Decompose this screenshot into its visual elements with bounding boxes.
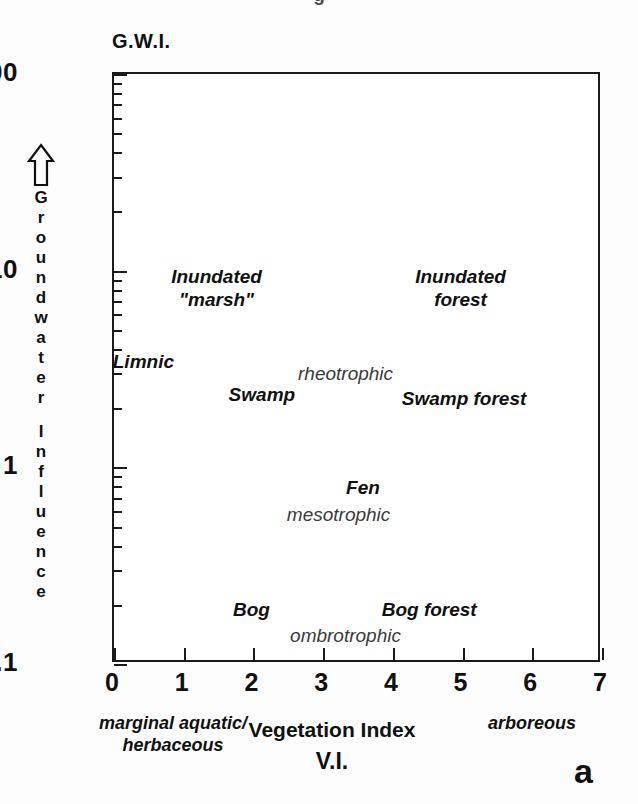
y-axis-title-char: n bbox=[24, 542, 58, 562]
wetland-type-label: Bog forest bbox=[382, 598, 477, 621]
y-axis-title-char: c bbox=[24, 562, 58, 582]
y-axis-minor-tick bbox=[114, 330, 122, 332]
x-axis-tick-label: 7 bbox=[580, 668, 620, 697]
trophic-status-label: rheotrophic bbox=[298, 363, 393, 385]
y-axis-title-char: w bbox=[24, 308, 58, 328]
up-arrow-outline-icon bbox=[27, 143, 55, 187]
y-axis-tick-label: 10 bbox=[0, 253, 18, 284]
x-axis-tick-label: 0 bbox=[92, 668, 132, 697]
y-axis-minor-tick bbox=[114, 605, 122, 607]
y-axis-title: GroundwaterInfluence bbox=[24, 188, 58, 602]
y-axis-title-char: o bbox=[24, 228, 58, 248]
y-axis-minor-tick bbox=[114, 314, 122, 316]
y-axis-minor-tick bbox=[114, 280, 122, 282]
x-axis-tick-label: 2 bbox=[231, 668, 271, 697]
y-axis-title-char: t bbox=[24, 348, 58, 368]
y-axis-title-word-gap bbox=[24, 408, 58, 422]
y-axis-title-char: I bbox=[24, 422, 58, 442]
x-axis-tick-label: 4 bbox=[371, 668, 411, 697]
x-axis-tick bbox=[532, 648, 534, 660]
figure-panel: g G.W.I. GroundwaterInfluence a Vegetati… bbox=[0, 0, 638, 804]
y-axis-minor-tick bbox=[114, 373, 122, 375]
y-axis-major-tick bbox=[114, 664, 127, 666]
wetland-type-label: Swamp forest bbox=[402, 386, 527, 409]
x-axis-tick bbox=[114, 648, 116, 660]
y-axis-title-char: d bbox=[24, 288, 58, 308]
y-axis-title-char: l bbox=[24, 482, 58, 502]
wetland-type-label: Limnic bbox=[113, 349, 174, 372]
wetland-type-label: Inundated "marsh" bbox=[171, 265, 262, 311]
y-axis-minor-tick bbox=[114, 83, 122, 85]
x-axis-tick-label: 5 bbox=[441, 668, 481, 697]
x-axis-tick-label: 6 bbox=[510, 668, 550, 697]
y-axis-title-char: e bbox=[24, 368, 58, 388]
wetland-type-label: Fen bbox=[346, 475, 380, 498]
y-axis-minor-tick bbox=[114, 408, 122, 410]
x-axis-tick bbox=[393, 648, 395, 660]
y-axis-minor-tick bbox=[114, 118, 122, 120]
y-axis-major-tick bbox=[114, 271, 127, 273]
y-axis-title-char: n bbox=[24, 442, 58, 462]
y-axis-minor-tick bbox=[114, 290, 122, 292]
y-axis-minor-tick bbox=[114, 511, 122, 513]
y-axis-major-tick bbox=[114, 74, 127, 76]
wetland-type-label: Inundated forest bbox=[415, 265, 506, 311]
x-axis-tick bbox=[463, 648, 465, 660]
wetland-type-label: Bog bbox=[233, 598, 270, 621]
y-axis-tick-label: 1 bbox=[0, 450, 18, 481]
y-axis-title-char: a bbox=[24, 328, 58, 348]
x-axis-note-left: marginal aquatic/ herbaceous bbox=[78, 712, 268, 756]
y-axis-minor-tick bbox=[114, 211, 122, 213]
y-axis-title-char: r bbox=[24, 388, 58, 408]
y-axis-minor-tick bbox=[114, 104, 122, 106]
y-axis-minor-tick bbox=[114, 476, 122, 478]
gwi-axis-heading: G.W.I. bbox=[112, 30, 171, 53]
trophic-status-label: mesotrophic bbox=[287, 504, 391, 526]
y-axis-title-char: e bbox=[24, 582, 58, 602]
trophic-status-label: ombrotrophic bbox=[290, 625, 401, 647]
x-axis-tick bbox=[602, 648, 604, 660]
y-axis-minor-tick bbox=[114, 177, 122, 179]
wetland-type-label: Swamp bbox=[229, 383, 296, 406]
y-axis-tick-label: 100 bbox=[0, 57, 18, 88]
y-axis-title-char: e bbox=[24, 522, 58, 542]
y-axis-minor-tick bbox=[114, 301, 122, 303]
y-axis-title-char: n bbox=[24, 268, 58, 288]
y-axis-major-tick bbox=[114, 467, 127, 469]
y-axis-minor-tick bbox=[114, 498, 122, 500]
y-axis-minor-tick bbox=[114, 152, 122, 154]
x-axis-tick-label: 3 bbox=[301, 668, 341, 697]
y-axis-minor-tick bbox=[114, 486, 122, 488]
y-axis-minor-tick bbox=[114, 93, 122, 95]
y-axis-title-char: G bbox=[24, 188, 58, 208]
y-axis-minor-tick bbox=[114, 133, 122, 135]
y-axis-tick-label: 0.1 bbox=[0, 647, 18, 678]
y-axis-title-char: f bbox=[24, 462, 58, 482]
y-axis-title-char: r bbox=[24, 208, 58, 228]
x-axis-tick bbox=[253, 648, 255, 660]
x-axis-tick-label: 1 bbox=[162, 668, 202, 697]
y-axis-minor-tick bbox=[114, 570, 122, 572]
x-axis-note-right: arboreous bbox=[452, 712, 612, 734]
x-axis-tick bbox=[323, 648, 325, 660]
x-axis-tick bbox=[184, 648, 186, 660]
y-axis-minor-tick bbox=[114, 527, 122, 529]
panel-letter: a bbox=[574, 752, 593, 791]
y-axis-minor-tick bbox=[114, 546, 122, 548]
y-axis-title-char: u bbox=[24, 248, 58, 268]
cropped-text-above-figure: g bbox=[0, 0, 638, 6]
y-axis-title-char: u bbox=[24, 502, 58, 522]
